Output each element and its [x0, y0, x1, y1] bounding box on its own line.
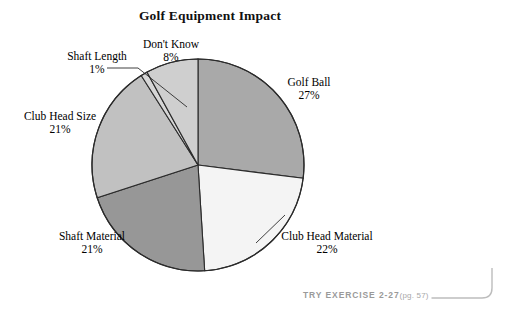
slice-label-club-head-size-value: 21% — [14, 123, 106, 136]
pie-chart-figure: Golf Equipment Impact Don't Know 8% Shaf… — [0, 0, 529, 316]
slice-label-dont-know: Don't Know 8% — [128, 38, 214, 64]
try-exercise-note: TRY EXERCISE 2-27(pg. 57) — [303, 290, 429, 300]
slice-label-dont-know-value: 8% — [128, 51, 214, 64]
footer-bracket-icon — [430, 268, 529, 316]
slice-label-golf-ball-value: 27% — [272, 89, 346, 102]
slice-label-club-head-material: Club Head Material 22% — [272, 230, 382, 256]
slice-label-dont-know-name: Don't Know — [128, 38, 214, 51]
try-exercise-page-ref: (pg. 57) — [400, 291, 429, 300]
slice-label-shaft-material-name: Shaft Material — [44, 230, 140, 243]
slice-label-golf-ball-name: Golf Ball — [272, 76, 346, 89]
slice-label-golf-ball: Golf Ball 27% — [272, 76, 346, 102]
slice-label-shaft-length-value: 1% — [56, 63, 138, 76]
slice-label-club-head-material-value: 22% — [272, 243, 382, 256]
try-exercise-label: TRY EXERCISE 2-27 — [303, 290, 400, 300]
slice-label-club-head-size-name: Club Head Size — [14, 110, 106, 123]
slice-label-club-head-size: Club Head Size 21% — [14, 110, 106, 136]
slice-label-shaft-material-value: 21% — [44, 243, 140, 256]
slice-label-shaft-length: Shaft Length 1% — [56, 50, 138, 76]
slice-label-shaft-length-name: Shaft Length — [56, 50, 138, 63]
slice-label-shaft-material: Shaft Material 21% — [44, 230, 140, 256]
slice-label-club-head-material-name: Club Head Material — [272, 230, 382, 243]
